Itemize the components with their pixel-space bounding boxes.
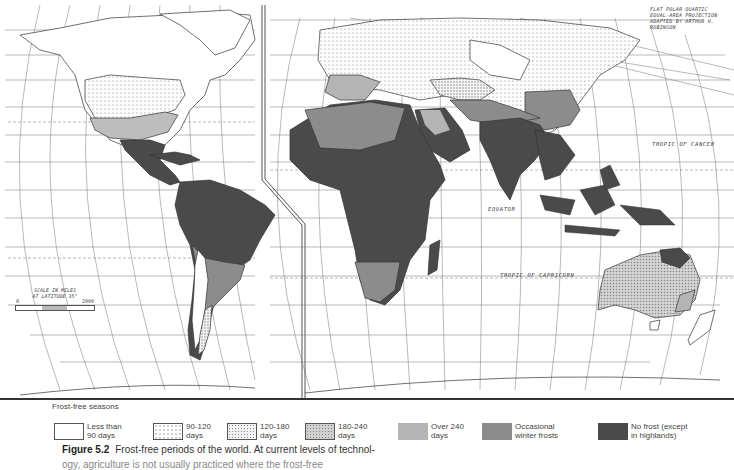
caption-text: Frost-free periods of the world. At curr…	[115, 444, 375, 455]
legend-item-lt90: Less than 90 days	[54, 422, 122, 440]
world-frost-map	[0, 0, 734, 400]
map-scale: SCALE IN MILES AT LATITUDE 35° 0 2000	[15, 287, 95, 311]
projection-line-3: ADAPTED BY ARTHUR H. ROBINSON	[650, 18, 734, 30]
legend-label: 90-120 days	[186, 422, 211, 440]
caption-cutoff-line: ogy, agriculture is not usually practice…	[62, 459, 323, 470]
swatch-sparse-dots	[153, 423, 183, 440]
new-zealand	[688, 310, 715, 345]
figure-caption: Figure 5.2Frost-free periods of the worl…	[62, 444, 375, 455]
swatch-fine-hatch	[305, 423, 335, 440]
legend-title: Frost-free seasons	[52, 402, 119, 411]
tropic-of-capricorn-label: TROPIC OF CAPRICORN	[500, 272, 574, 278]
legend-item-120-180: 120-180 days	[227, 422, 289, 440]
scale-bar: 0 2000	[15, 305, 95, 311]
swatch-dark-gray	[598, 423, 628, 440]
legend-label: 180-240 days	[338, 422, 367, 440]
legend: Less than 90 days 90-120 days 120-180 da…	[0, 422, 734, 446]
legend-label: Less than 90 days	[87, 422, 122, 440]
legend-item-180-240: 180-240 days	[305, 422, 367, 440]
figure-number: Figure 5.2	[62, 444, 109, 455]
swatch-blank	[54, 423, 84, 440]
legend-item-no-frost: No frost (except in highlands)	[598, 422, 687, 440]
swatch-light-gray	[398, 423, 428, 440]
swatch-mid-gray	[482, 423, 512, 440]
swatch-dense-dots	[227, 423, 257, 440]
legend-item-90-120: 90-120 days	[153, 422, 211, 440]
australia	[598, 248, 700, 330]
equator-label: EQUATOR	[488, 206, 515, 212]
legend-label: Over 240 days	[431, 422, 464, 440]
scale-min: 0	[16, 298, 19, 304]
se-asia-islands	[540, 165, 675, 236]
legend-label: Occasional winter frosts	[515, 422, 558, 440]
legend-label: No frost (except in highlands)	[631, 422, 687, 440]
legend-label: 120-180 days	[260, 422, 289, 440]
legend-item-over240: Over 240 days	[398, 422, 464, 440]
legend-item-occasional: Occasional winter frosts	[482, 422, 558, 440]
interruption-line	[262, 5, 305, 400]
tropic-of-cancer-label: TROPIC OF CANCER	[652, 141, 715, 147]
south-america	[175, 180, 275, 360]
scale-max: 2000	[82, 298, 94, 304]
projection-note: FLAT POLAR QUARTIC EQUAL-AREA PROJECTION…	[650, 6, 734, 30]
map-bottom-rule	[0, 398, 734, 400]
